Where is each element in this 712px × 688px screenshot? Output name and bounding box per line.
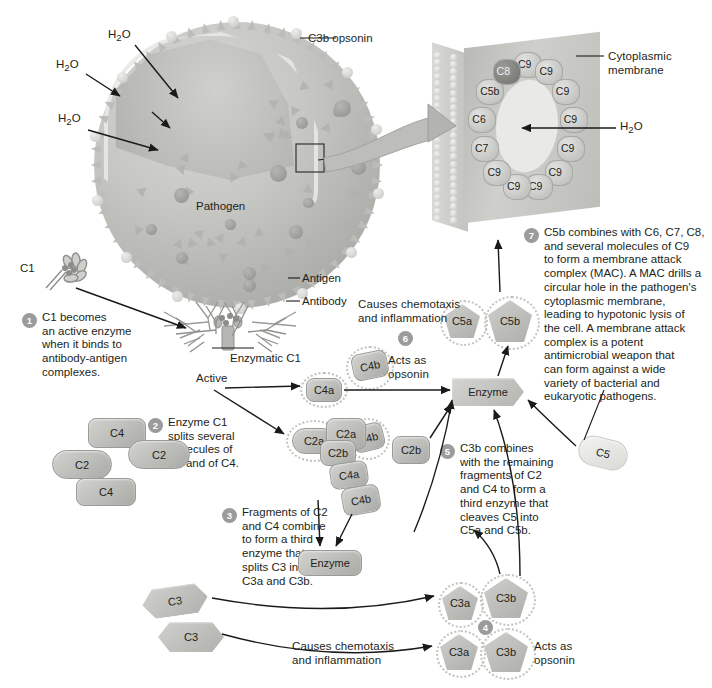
process-arrows [76, 45, 616, 653]
leader-lines [212, 38, 604, 440]
antibody-sprites [176, 306, 286, 352]
pathogen-zoom-connector [296, 104, 456, 172]
arrow-overlay [0, 0, 712, 688]
figure-canvas: Pathogen H2O H2O H2O C3b opsonin Antigen… [0, 0, 712, 688]
